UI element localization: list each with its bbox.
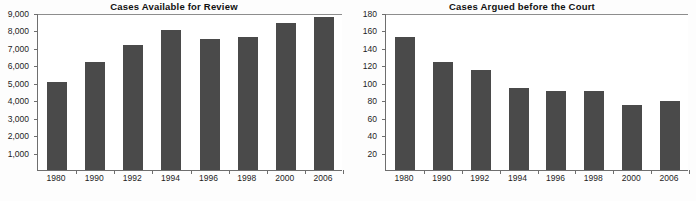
x-tick-mark bbox=[343, 170, 344, 174]
y-tick-label: 180 bbox=[363, 10, 377, 19]
y-tick-mark bbox=[382, 66, 386, 67]
y-tick-mark bbox=[34, 49, 38, 50]
x-tick-label: 1996 bbox=[199, 173, 218, 183]
y-tick-mark bbox=[382, 31, 386, 32]
bar bbox=[123, 45, 143, 170]
x-tick-label: 2000 bbox=[622, 173, 641, 183]
y-tick-label: 120 bbox=[363, 62, 377, 71]
y-tick-mark bbox=[382, 136, 386, 137]
x-tick-label: 1980 bbox=[47, 173, 66, 183]
x-tick-label: 1998 bbox=[584, 173, 603, 183]
x-axis-labels: 19801990199219941996199820002006 bbox=[385, 173, 688, 187]
bar bbox=[660, 101, 680, 170]
y-tick-label: 40 bbox=[368, 132, 377, 141]
y-tick-mark bbox=[34, 154, 38, 155]
y-tick-mark bbox=[382, 14, 386, 15]
y-tick-label: 3,000 bbox=[8, 114, 29, 123]
y-tick-mark bbox=[382, 84, 386, 85]
x-tick-label: 1994 bbox=[508, 173, 527, 183]
y-tick-mark bbox=[34, 119, 38, 120]
y-tick-mark bbox=[34, 66, 38, 67]
y-axis-labels: 20406080100120140160180 bbox=[348, 14, 382, 171]
bar bbox=[509, 88, 529, 170]
bar bbox=[200, 39, 220, 170]
bar bbox=[546, 91, 566, 170]
x-tick-label: 1992 bbox=[123, 173, 142, 183]
y-tick-label: 9,000 bbox=[8, 10, 29, 19]
x-tick-label: 1990 bbox=[85, 173, 104, 183]
y-tick-mark bbox=[382, 101, 386, 102]
bar bbox=[276, 23, 296, 170]
plot-area bbox=[385, 14, 688, 171]
x-tick-label: 1992 bbox=[470, 173, 489, 183]
x-tick-label: 1996 bbox=[546, 173, 565, 183]
x-tick-label: 2006 bbox=[313, 173, 332, 183]
y-tick-label: 2,000 bbox=[8, 132, 29, 141]
x-tick-label: 1980 bbox=[394, 173, 413, 183]
y-tick-label: 160 bbox=[363, 27, 377, 36]
y-tick-label: 8,000 bbox=[8, 27, 29, 36]
bar-series bbox=[386, 15, 688, 170]
bar bbox=[622, 105, 642, 170]
y-tick-label: 5,000 bbox=[8, 80, 29, 89]
y-tick-label: 4,000 bbox=[8, 97, 29, 106]
bar-series bbox=[38, 15, 342, 170]
x-tick-label: 2000 bbox=[275, 173, 294, 183]
x-tick-label: 1998 bbox=[237, 173, 256, 183]
x-tick-label: 1990 bbox=[432, 173, 451, 183]
bar bbox=[85, 62, 105, 171]
y-tick-label: 1,000 bbox=[8, 149, 29, 158]
y-tick-mark bbox=[34, 14, 38, 15]
x-axis-labels: 19801990199219941996199820002006 bbox=[37, 173, 342, 187]
y-tick-label: 60 bbox=[368, 114, 377, 123]
bar bbox=[238, 37, 258, 170]
bar bbox=[471, 70, 491, 170]
y-tick-label: 80 bbox=[368, 97, 377, 106]
bar bbox=[314, 17, 334, 170]
y-tick-mark bbox=[34, 101, 38, 102]
y-tick-mark bbox=[382, 154, 386, 155]
x-tick-label: 2006 bbox=[660, 173, 679, 183]
y-tick-label: 20 bbox=[368, 149, 377, 158]
x-tick-label: 1994 bbox=[161, 173, 180, 183]
y-tick-label: 140 bbox=[363, 45, 377, 54]
chart-panel-cases-available: Cases Available for Review 1,0002,0003,0… bbox=[0, 0, 348, 201]
y-tick-mark bbox=[34, 31, 38, 32]
chart-title: Cases Argued before the Court bbox=[348, 1, 696, 12]
bar bbox=[584, 91, 604, 170]
y-axis-labels: 1,0002,0003,0004,0005,0006,0007,0008,000… bbox=[0, 14, 34, 171]
bar bbox=[395, 37, 415, 170]
plot-area bbox=[37, 14, 342, 171]
chart-panel-cases-argued: Cases Argued before the Court 2040608010… bbox=[348, 0, 696, 201]
chart-title: Cases Available for Review bbox=[0, 1, 348, 12]
y-tick-label: 100 bbox=[363, 80, 377, 89]
y-tick-label: 6,000 bbox=[8, 62, 29, 71]
y-tick-mark bbox=[34, 136, 38, 137]
figure-container: Cases Available for Review 1,0002,0003,0… bbox=[0, 0, 696, 201]
bar bbox=[47, 82, 67, 170]
bar bbox=[433, 62, 453, 170]
y-tick-mark bbox=[34, 84, 38, 85]
y-tick-label: 7,000 bbox=[8, 45, 29, 54]
x-tick-mark bbox=[689, 170, 690, 174]
y-tick-mark bbox=[382, 49, 386, 50]
y-tick-mark bbox=[382, 119, 386, 120]
bar bbox=[161, 30, 181, 170]
